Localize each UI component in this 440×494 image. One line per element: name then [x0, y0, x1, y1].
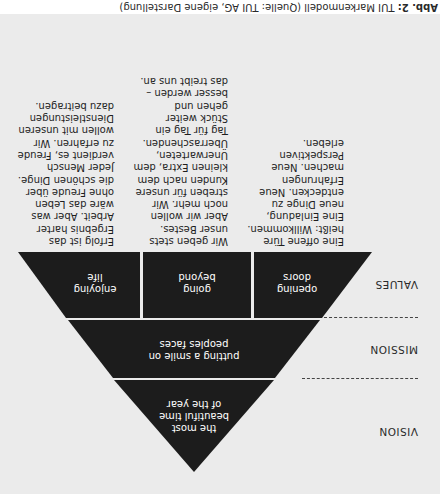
caption-text: TUI Markenmodell (Quelle: TUI AG, eigene… — [119, 2, 397, 13]
figure-canvas: VISION MISSION VALUES the most beautiful… — [0, 0, 440, 494]
vision-line: beautiful time — [144, 410, 244, 422]
value-line: enjoying — [50, 283, 140, 295]
vision-line: of the year — [144, 398, 244, 410]
value-opening-doors: opening doors — [254, 271, 340, 295]
value-enjoying-life: enjoying life — [50, 271, 140, 295]
description-going-beyond: Wir geben stets unser Bestes. Aber wir w… — [120, 75, 228, 247]
vision-text: the most beautiful time of the year — [144, 398, 244, 434]
values-label: VALUES — [375, 279, 418, 291]
value-line: beyond — [143, 271, 251, 283]
vision-line: the most — [144, 422, 244, 434]
value-line: doors — [254, 271, 340, 283]
value-line: going — [143, 283, 251, 295]
mission-values-divider — [324, 317, 418, 318]
caption-prefix: Abb. 2: — [398, 2, 438, 13]
description-opening-doors: Eine offene Türe heißt: Willkommen. Eine… — [232, 136, 344, 247]
mission-line: peoples faces — [134, 338, 254, 350]
value-line: life — [50, 271, 140, 283]
value-going-beyond: going beyond — [143, 271, 251, 295]
vision-label: VISION — [379, 426, 418, 438]
vision-mission-divider — [302, 378, 418, 379]
mission-text: putting a smile on peoples faces — [134, 338, 254, 362]
value-line: opening — [254, 283, 340, 295]
mission-line: putting a smile on — [134, 350, 254, 362]
description-enjoying-life: Erfolg ist das Ergebnis harter Arbeit. A… — [2, 99, 114, 247]
figure-caption: Abb. 2: TUI Markenmodell (Quelle: TUI AG… — [119, 1, 438, 14]
mission-label: MISSION — [370, 344, 418, 356]
